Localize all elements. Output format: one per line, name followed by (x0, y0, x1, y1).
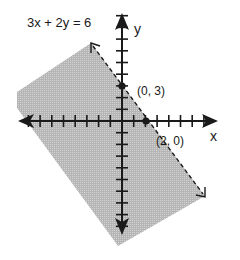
x-axis-label: x (210, 128, 217, 144)
point-label-0-3: (0, 3) (137, 84, 165, 98)
equation-label: 3x + 2y = 6 (27, 15, 91, 30)
point-0-3 (118, 82, 125, 89)
point-2-0 (142, 117, 149, 124)
y-axis-label: y (134, 21, 141, 37)
inequality-graph: 3x + 2y = 6 y x (0, 3) (2, 0) (0, 0, 240, 260)
point-label-2-0: (2, 0) (156, 134, 184, 148)
